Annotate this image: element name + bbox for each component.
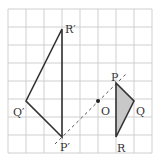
label-p: P xyxy=(111,71,119,84)
diagram-canvas: R′ Q′ P′ P Q R O xyxy=(0,0,166,167)
grid xyxy=(8,9,152,153)
label-q-prime: Q′ xyxy=(13,106,25,119)
triangle-pqr xyxy=(116,83,134,137)
label-o: O xyxy=(101,105,110,118)
label-p-prime: P′ xyxy=(60,141,70,154)
label-r: R xyxy=(117,142,126,155)
label-q: Q xyxy=(136,105,145,118)
center-point-o xyxy=(96,99,100,103)
label-r-prime: R′ xyxy=(65,23,76,36)
